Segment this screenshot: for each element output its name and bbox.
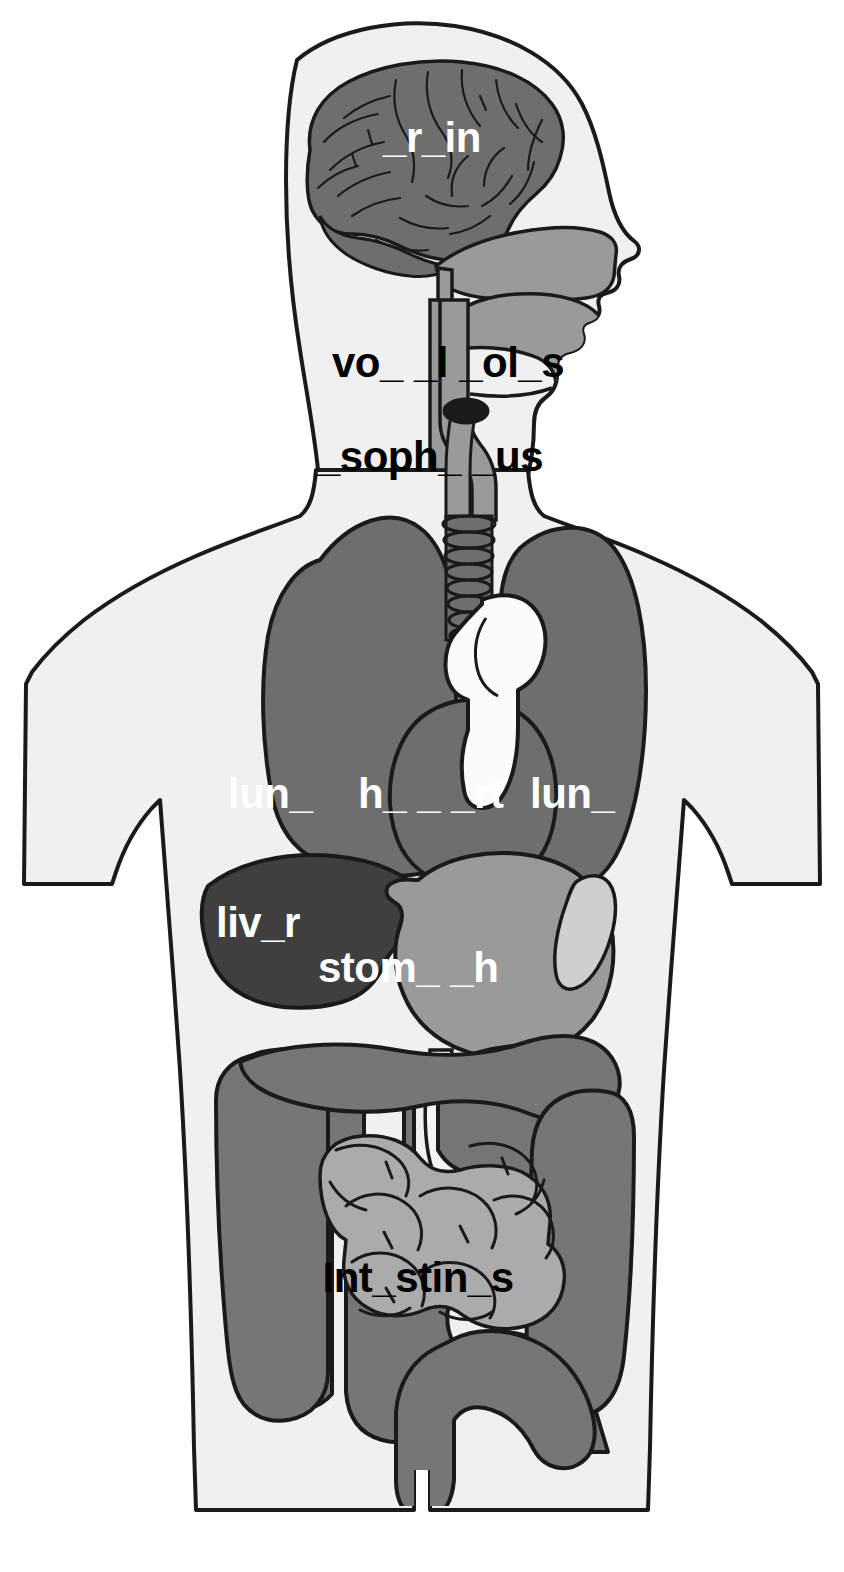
vocal-folds [444, 399, 488, 423]
anatomy-illustration: _r_in vo_ _l _ol_s _soph_ _us lun_ h_ _ … [0, 0, 844, 1572]
anatomy-diagram: _r_in vo_ _l _ol_s _soph_ _us lun_ h_ _ … [0, 0, 844, 1572]
esophagus [446, 410, 476, 520]
